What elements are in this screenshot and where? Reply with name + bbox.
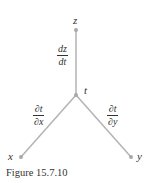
edge-label-dt-dx: ∂t ∂x <box>33 104 44 127</box>
node-y-dot <box>129 155 133 159</box>
fraction-numerator: ∂t <box>34 104 44 114</box>
node-x-label: x <box>8 151 13 162</box>
node-t-label: t <box>84 85 87 96</box>
fraction-numerator: dz <box>57 44 68 54</box>
node-t-dot <box>74 93 78 97</box>
node-y-label: y <box>137 151 142 162</box>
fraction-denominator: dt <box>58 57 68 67</box>
node-z-dot <box>74 28 78 32</box>
edge-t-x <box>21 95 76 157</box>
fraction-numerator: ∂t <box>108 104 118 114</box>
node-z-label: z <box>73 15 77 26</box>
fraction-denominator: ∂x <box>33 117 44 127</box>
node-x-dot <box>19 155 23 159</box>
tree-diagram <box>0 0 153 183</box>
edge-t-y <box>76 95 131 157</box>
figure-caption: Figure 15.7.10 <box>6 167 68 178</box>
edge-label-dt-dy: ∂t ∂y <box>107 104 118 127</box>
fraction-denominator: ∂y <box>107 117 118 127</box>
edge-label-dz-dt: dz dt <box>57 44 68 67</box>
